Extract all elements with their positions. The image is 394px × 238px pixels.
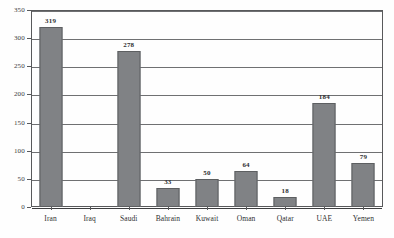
x-tick-label-iraq: Iraq (83, 214, 95, 223)
bar-slot: 79 (344, 10, 383, 207)
x-tick-mark (129, 207, 130, 210)
x-tick-label-kuwait: Kuwait (196, 214, 219, 223)
bar-value-label: 184 (319, 93, 330, 101)
bar-slot: 50 (187, 10, 226, 207)
bar (117, 51, 140, 207)
x-tick-mark (285, 207, 286, 210)
y-tick-label: 200 (14, 90, 25, 98)
y-tick-label: 300 (14, 34, 25, 42)
bar-value-label: 79 (360, 153, 367, 161)
bar-slot (70, 10, 109, 207)
y-axis: 050100150200250300350 (0, 0, 31, 238)
x-tick-mark (51, 207, 52, 210)
x-tick-label-bahrain: Bahrain (156, 214, 180, 223)
y-tick-mark (27, 207, 31, 208)
y-tick-label: 50 (18, 175, 25, 183)
bar-value-label: 319 (45, 17, 56, 25)
x-tick-mark (207, 207, 208, 210)
bar-chart: 050100150200250300350 319278335064181847… (0, 0, 394, 238)
bar-slot: 18 (266, 10, 305, 207)
x-tick-label-oman: Oman (237, 214, 256, 223)
bar (195, 179, 218, 207)
bar-slot: 33 (148, 10, 187, 207)
x-tick-mark (246, 207, 247, 210)
bar-value-label: 33 (164, 178, 171, 186)
x-tick-mark (90, 207, 91, 210)
x-axis: IranIraqSaudiBahrainKuwaitOmanQatarUAEYe… (31, 209, 383, 234)
x-tick-mark (168, 207, 169, 210)
bar-slot: 278 (109, 10, 148, 207)
bar-slot: 184 (305, 10, 344, 207)
y-tick-label: 0 (21, 203, 25, 211)
x-tick-label-yemen: Yemen (353, 214, 374, 223)
bar-slot: 64 (227, 10, 266, 207)
bar-value-label: 278 (123, 41, 134, 49)
bars-layer: 3192783350641818479 (31, 10, 383, 207)
x-tick-label-uae: UAE (316, 214, 332, 223)
x-tick-mark (324, 207, 325, 210)
x-tick-label-qatar: Qatar (277, 214, 294, 223)
bar-value-label: 64 (242, 161, 249, 169)
bar (39, 27, 62, 207)
bar (274, 197, 297, 207)
y-tick-label: 350 (14, 6, 25, 14)
y-tick-label: 100 (14, 147, 25, 155)
bar (156, 188, 179, 207)
x-tick-mark (363, 207, 364, 210)
bar-value-label: 18 (282, 187, 289, 195)
x-tick-label-iran: Iran (44, 214, 56, 223)
bar-value-label: 50 (203, 169, 210, 177)
x-tick-label-saudi: Saudi (120, 214, 138, 223)
y-tick-label: 250 (14, 62, 25, 70)
y-tick-label: 150 (14, 119, 25, 127)
bar-slot: 319 (31, 10, 70, 207)
bar (235, 171, 258, 207)
bar (313, 103, 336, 207)
bar (352, 163, 375, 207)
